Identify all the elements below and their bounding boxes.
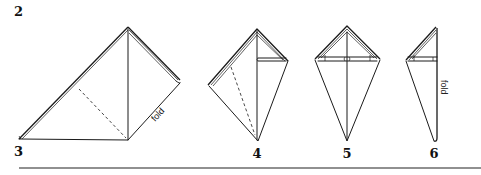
origami-diagram: 2 fold 3 4 bbox=[0, 0, 481, 175]
figure-4-inner-flap bbox=[258, 58, 286, 61]
figure-6: fold 6 bbox=[406, 27, 449, 161]
figure-6-layer-2 bbox=[412, 33, 436, 59]
figure-3-left-layer bbox=[22, 30, 128, 139]
figure-6-fold-label: fold bbox=[439, 80, 449, 95]
figure-4-lower-edges bbox=[209, 61, 288, 141]
figure-3-right-layer-1 bbox=[129, 30, 178, 80]
step-label-2: 2 bbox=[14, 4, 23, 19]
figure-3-dashed-fold-line bbox=[79, 89, 126, 138]
step-label-5: 5 bbox=[342, 146, 351, 161]
figure-6-top-edge bbox=[406, 27, 436, 60]
figure-3-right-corner bbox=[176, 81, 180, 83]
step-label-4: 4 bbox=[252, 146, 261, 161]
figure-4-top-edges bbox=[208, 29, 288, 85]
figure-6-fold-edge bbox=[434, 28, 437, 141]
step-label-3: 3 bbox=[14, 144, 23, 159]
figure-3: fold 3 bbox=[14, 27, 180, 159]
figure-3-left-edge bbox=[19, 27, 128, 139]
figure-3-right-layer-2 bbox=[129, 33, 176, 81]
figure-4: 4 bbox=[208, 29, 288, 161]
figure-3-fold-label: fold bbox=[149, 106, 166, 123]
figure-3-right-edge bbox=[128, 27, 180, 80]
figure-6-left-edge bbox=[406, 61, 434, 141]
figure-5: 5 bbox=[315, 26, 380, 161]
figure-6-layer-1 bbox=[409, 30, 436, 60]
step-label-6: 6 bbox=[429, 146, 438, 161]
figure-6-flap-details bbox=[414, 55, 433, 61]
